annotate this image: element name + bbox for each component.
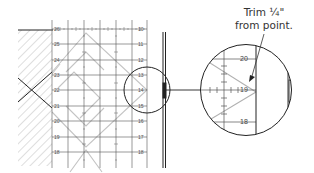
svg-text:18: 18 [138, 149, 144, 155]
svg-text:20: 20 [240, 55, 248, 62]
svg-text:19: 19 [240, 86, 248, 93]
annotation-line-1: Trim ¼" [228, 6, 300, 19]
ruler-row-numbers: 26 25 24 23 22 21 20 19 18 [54, 26, 60, 155]
svg-text:25: 25 [54, 41, 60, 47]
svg-text:10: 10 [138, 26, 144, 32]
svg-text:16: 16 [138, 118, 144, 124]
svg-text:11: 11 [138, 41, 143, 47]
ruler-grid [52, 20, 147, 168]
ruler-right-numbers: 10 11 12 13 14 15 16 17 18 [138, 26, 144, 155]
diagonal-fabric-lines [52, 33, 147, 172]
svg-text:17: 17 [138, 134, 144, 140]
svg-text:23: 23 [54, 72, 60, 78]
annotation-line-2: from point. [228, 19, 300, 32]
svg-text:18: 18 [54, 149, 60, 155]
svg-text:15: 15 [138, 103, 144, 109]
svg-text:26: 26 [54, 26, 60, 32]
svg-text:20: 20 [54, 118, 60, 124]
svg-text:12: 12 [138, 57, 144, 63]
svg-text:19: 19 [54, 134, 60, 140]
svg-text:21: 21 [54, 103, 60, 109]
svg-text:13: 13 [138, 72, 144, 78]
trim-annotation: Trim ¼" from point. [228, 6, 300, 32]
svg-text:24: 24 [54, 57, 60, 63]
svg-text:14: 14 [138, 87, 144, 93]
svg-text:18: 18 [240, 118, 248, 125]
side-view-bar [163, 32, 166, 168]
svg-text:22: 22 [54, 87, 60, 93]
